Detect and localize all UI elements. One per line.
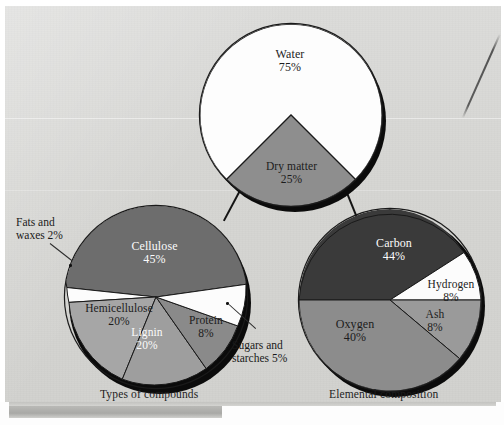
slice-label-ash: Ash 8% (411, 308, 459, 334)
slice-label-oxygen: Oxygen 40% (317, 318, 393, 345)
slice-value: 45% (107, 253, 202, 266)
slice-name: Oxygen (317, 318, 393, 331)
slice-value: 8% (175, 327, 237, 340)
caption-elemental-composition: Elemental composition (329, 388, 439, 400)
slice-name: Dry matter (239, 160, 344, 173)
leader-dot-fats-and-waxes (69, 264, 72, 267)
pie-chart-elemental-composition: Carbon 44% Hydrogen 8% Ash 8% Oxygen 40% (296, 205, 492, 397)
slice-label-water: Water 75% (245, 48, 335, 75)
leader-dot-sugars-and-starches (226, 302, 229, 305)
slice-name: Carbon (356, 237, 432, 250)
slice-value: 8% (413, 291, 489, 304)
callout-line-1: Fats and (16, 216, 55, 228)
slice-name: Cellulose (107, 240, 202, 253)
slice-label-hydrogen: Hydrogen 8% (413, 278, 489, 304)
slice-name: Hydrogen (413, 278, 489, 291)
slice-label-protein: Protein 8% (175, 314, 237, 340)
callout-line-2: starches 5% (232, 352, 287, 364)
slice-value: 44% (356, 250, 432, 263)
slice-label-carbon: Carbon 44% (356, 237, 432, 264)
page-bottom-bar (9, 406, 222, 418)
slice-value: 20% (116, 339, 178, 352)
slice-value: 40% (317, 331, 393, 344)
figure-page: Water 75% Dry matter 25% (0, 0, 504, 425)
slice-value: 8% (411, 321, 459, 334)
callout-line-1: Sugars and (232, 339, 283, 351)
slice-label-cellulose: Cellulose 45% (107, 240, 202, 267)
slice-name: Ash (411, 308, 459, 321)
pie-chart-composition-of-biomass: Water 75% Dry matter 25% (197, 20, 392, 210)
slice-label-hemicellulose: Hemicellulose 20% (64, 302, 174, 328)
slice-name: Water (245, 48, 335, 61)
caption-types-of-compounds: Types of compounds (100, 388, 198, 400)
slice-name: Hemicellulose (64, 302, 174, 315)
callout-line-2: waxes 2% (16, 229, 63, 241)
callout-fats-and-waxes: Fats and waxes 2% (16, 216, 102, 242)
slice-name: Protein (175, 314, 237, 327)
slice-label-dry-matter: Dry matter 25% (239, 160, 344, 186)
slice-label-lignin: Lignin 20% (116, 326, 178, 352)
slice-value: 25% (239, 173, 344, 186)
slice-name: Lignin (116, 326, 178, 339)
slice-value: 75% (245, 61, 335, 74)
